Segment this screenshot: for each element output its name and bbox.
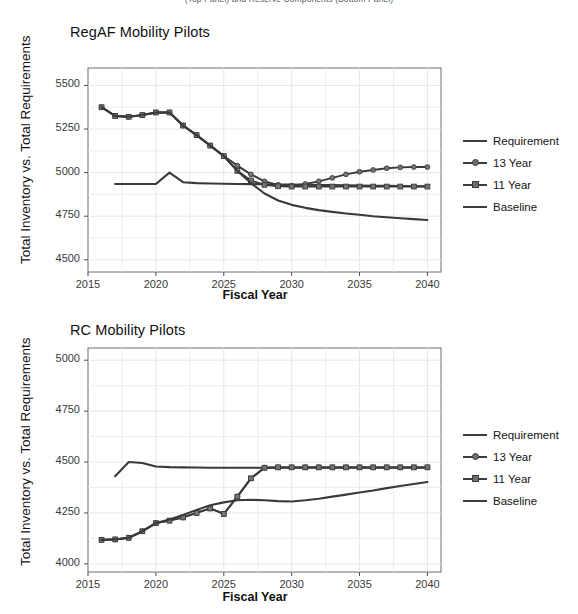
x-tick-label: 2025 — [199, 578, 249, 590]
legend-label: Requirement — [488, 429, 559, 441]
legend-item[interactable]: 13 Year — [462, 446, 578, 468]
data-point-marker — [398, 165, 403, 170]
legend-label: Requirement — [488, 135, 559, 147]
data-point-marker — [411, 165, 416, 170]
data-point-marker — [357, 184, 362, 189]
legend-key-13-year-icon — [462, 448, 488, 466]
data-point-marker — [398, 184, 403, 189]
data-point-marker — [262, 182, 267, 187]
y-tick-label: 5000 — [32, 352, 80, 364]
data-point-marker — [303, 184, 308, 189]
y-tick-label: 4750 — [32, 208, 80, 220]
x-tick-label: 2040 — [402, 278, 452, 290]
data-point-marker — [425, 165, 430, 170]
legend-label: Baseline — [488, 201, 537, 213]
chart-panel-regaf: RegAF Mobility Pilots Total Inventory vs… — [0, 14, 578, 310]
x-tick-label: 2035 — [335, 278, 385, 290]
legend-label: Baseline — [488, 495, 537, 507]
data-point-marker — [316, 465, 321, 470]
legend-key-baseline-icon — [462, 198, 488, 216]
y-tick-label: 5000 — [32, 165, 80, 177]
legend-key-13-year-icon — [462, 154, 488, 172]
y-tick-label: 5500 — [32, 77, 80, 89]
y-tick-label: 4500 — [32, 454, 80, 466]
legend-label: 11 Year — [488, 179, 531, 191]
data-point-marker — [249, 476, 254, 481]
data-point-marker — [344, 465, 349, 470]
data-point-marker — [425, 184, 430, 189]
x-tick-label: 2020 — [131, 278, 181, 290]
x-tick-label: 2025 — [199, 278, 249, 290]
data-point-marker — [330, 465, 335, 470]
x-tick-label: 2030 — [267, 278, 317, 290]
data-point-marker — [411, 184, 416, 189]
legend-label: 11 Year — [488, 473, 531, 485]
legend-key-11-year-icon — [462, 470, 488, 488]
y-tick-label: 4250 — [32, 505, 80, 517]
data-point-marker — [371, 168, 376, 173]
chart-legend: Requirement 13 Year 11 Year Baseline — [462, 130, 578, 218]
data-point-marker — [276, 465, 281, 470]
legend-item[interactable]: 13 Year — [462, 152, 578, 174]
x-tick-label: 2035 — [335, 578, 385, 590]
legend-key-requirement-icon — [462, 426, 488, 444]
legend-label: 13 Year — [488, 157, 532, 169]
data-point-marker — [384, 166, 389, 171]
data-point-marker — [262, 465, 267, 470]
legend-key-requirement-icon — [462, 132, 488, 150]
data-point-marker — [330, 175, 335, 180]
data-point-marker — [384, 465, 389, 470]
data-point-marker — [316, 184, 321, 189]
data-point-marker — [357, 465, 362, 470]
chart-legend: Requirement 13 Year 11 Year Baseline — [462, 424, 578, 512]
data-point-marker — [221, 512, 226, 517]
data-point-marker — [398, 465, 403, 470]
data-point-marker — [249, 172, 254, 177]
figure-page: (Top Panel) and Reserve Components (Bott… — [0, 0, 578, 614]
y-tick-label: 5250 — [32, 121, 80, 133]
data-point-marker — [344, 172, 349, 177]
data-point-marker — [357, 169, 362, 174]
data-point-marker — [411, 465, 416, 470]
x-tick-label: 2020 — [131, 578, 181, 590]
data-point-marker — [371, 184, 376, 189]
data-point-marker — [330, 184, 335, 189]
y-tick-label: 4500 — [32, 252, 80, 264]
figure-supertitle: (Top Panel) and Reserve Components (Bott… — [0, 0, 578, 6]
y-tick-label: 4000 — [32, 556, 80, 568]
legend-label: 13 Year — [488, 451, 532, 463]
data-point-marker — [276, 184, 281, 189]
legend-item[interactable]: Baseline — [462, 196, 578, 218]
chart-panel-rc: RC Mobility Pilots Total Inventory vs. T… — [0, 312, 578, 612]
data-point-marker — [235, 163, 240, 168]
legend-item[interactable]: 11 Year — [462, 468, 578, 490]
data-point-marker — [425, 465, 430, 470]
data-point-marker — [289, 465, 294, 470]
data-point-marker — [235, 494, 240, 499]
data-point-marker — [316, 179, 321, 184]
legend-key-11-year-icon — [462, 176, 488, 194]
legend-key-baseline-icon — [462, 492, 488, 510]
x-tick-label: 2040 — [402, 578, 452, 590]
x-tick-label: 2015 — [63, 578, 113, 590]
x-tick-label: 2015 — [63, 278, 113, 290]
data-point-marker — [371, 465, 376, 470]
data-point-marker — [289, 184, 294, 189]
data-point-marker — [303, 465, 308, 470]
legend-item[interactable]: Requirement — [462, 424, 578, 446]
legend-item[interactable]: Requirement — [462, 130, 578, 152]
legend-item[interactable]: 11 Year — [462, 174, 578, 196]
x-tick-label: 2030 — [267, 578, 317, 590]
y-tick-label: 4750 — [32, 403, 80, 415]
data-point-marker — [384, 184, 389, 189]
legend-item[interactable]: Baseline — [462, 490, 578, 512]
data-point-marker — [344, 184, 349, 189]
